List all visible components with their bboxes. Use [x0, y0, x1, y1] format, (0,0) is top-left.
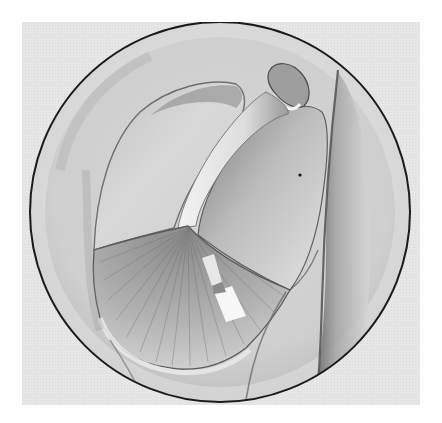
illustration-plate: [22, 22, 420, 405]
tympanic-membrane-illustration: [22, 22, 420, 405]
